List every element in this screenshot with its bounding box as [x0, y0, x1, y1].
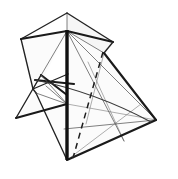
origami-line-drawing — [0, 0, 178, 179]
origami-figure-canvas — [0, 0, 178, 179]
